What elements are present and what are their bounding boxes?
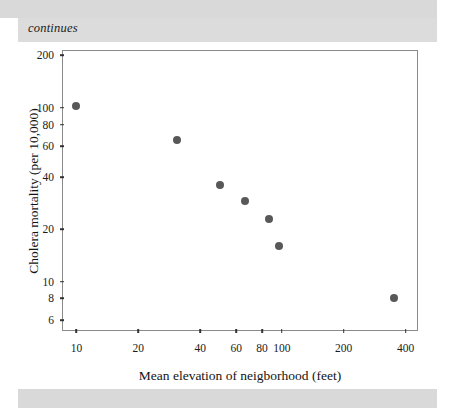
y-axis-tick-mark <box>60 319 64 321</box>
x-axis-tick-mark <box>405 329 407 333</box>
x-axis-tick-label: 100 <box>273 342 290 354</box>
y-axis-tick-mark <box>60 281 64 283</box>
x-axis-tick-mark <box>199 329 201 333</box>
x-axis-tick-label: 80 <box>256 342 268 354</box>
plot-frame <box>62 50 418 331</box>
y-axis-tick-mark <box>60 298 64 300</box>
y-axis-tick-mark <box>60 124 64 126</box>
y-axis-tick-mark <box>60 176 64 178</box>
y-axis-tick-mark <box>60 55 64 57</box>
data-point <box>241 197 249 205</box>
page-gutter-right <box>437 0 455 408</box>
figure-root: continues 681020406080100200102040608010… <box>0 0 455 408</box>
scatter-plot: 6810204060801002001020406080100200400 Me… <box>0 0 455 408</box>
x-axis-tick-mark <box>343 329 345 333</box>
x-axis-tick-label: 200 <box>335 342 352 354</box>
x-axis-tick-mark <box>236 329 238 333</box>
y-axis-title: Cholera mortality (per 10,000) <box>26 61 42 321</box>
x-axis-tick-label: 60 <box>231 342 243 354</box>
x-axis-tick-label: 40 <box>194 342 206 354</box>
y-axis-tick-mark <box>60 107 64 109</box>
x-axis-tick-mark <box>281 329 283 333</box>
x-axis-tick-mark <box>261 329 263 333</box>
y-axis-tick-mark <box>60 229 64 231</box>
x-axis-tick-mark <box>76 329 78 333</box>
x-axis-tick-label: 10 <box>71 342 83 354</box>
page-gutter-left <box>0 18 18 408</box>
x-axis-title: Mean elevation of neigborhood (feet) <box>62 368 418 384</box>
page-band-bottom <box>18 389 437 408</box>
y-axis-tick-mark <box>60 146 64 148</box>
x-axis-tick-mark <box>138 329 140 333</box>
x-axis-tick-label: 20 <box>133 342 145 354</box>
x-axis-tick-label: 400 <box>397 342 414 354</box>
data-point <box>216 181 224 189</box>
